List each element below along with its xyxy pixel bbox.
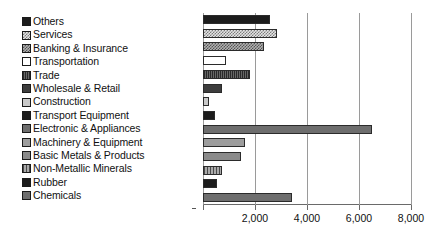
legend-item[interactable]: Machinery & Equipment xyxy=(22,136,187,149)
bar-series xyxy=(203,13,412,205)
x-axis-tick-label: 2,000 xyxy=(242,212,268,224)
legend-item-label: Wholesale & Retail xyxy=(33,82,120,95)
legend-swatch-icon xyxy=(22,98,31,107)
legend-item-label: Banking & Insurance xyxy=(33,42,128,55)
bar[interactable] xyxy=(203,179,217,188)
legend-item[interactable]: Trade xyxy=(22,69,187,82)
x-axis-origin-tick xyxy=(203,205,204,210)
bar[interactable] xyxy=(203,15,270,24)
bar-row xyxy=(203,177,412,191)
x-axis-tick xyxy=(359,205,360,210)
x-axis-tick xyxy=(255,205,256,210)
bar-row xyxy=(203,191,412,205)
legend-swatch-icon xyxy=(22,111,31,120)
plot-area xyxy=(203,13,412,205)
legend-item[interactable]: Transport Equipment xyxy=(22,109,187,122)
legend-item-label: Electronic & Appliances xyxy=(33,122,140,135)
bar-row xyxy=(203,13,412,27)
legend-item[interactable]: Electronic & Appliances xyxy=(22,122,187,135)
legend-item-label: Trade xyxy=(33,69,60,82)
legend-item-label: Rubber xyxy=(33,176,67,189)
bar-row xyxy=(203,95,412,109)
bar-chart: OthersServicesBanking & InsuranceTranspo… xyxy=(0,0,432,250)
bar-row xyxy=(203,136,412,150)
legend-item-label: Transport Equipment xyxy=(33,109,129,122)
bar[interactable] xyxy=(203,56,226,65)
bar-row xyxy=(203,68,412,82)
bar-row xyxy=(203,164,412,178)
bar-row xyxy=(203,123,412,137)
legend-item-label: Services xyxy=(33,28,72,41)
bar-row xyxy=(203,54,412,68)
bar[interactable] xyxy=(203,97,209,106)
legend-item[interactable]: Banking & Insurance xyxy=(22,42,187,55)
legend-swatch-icon xyxy=(22,178,31,187)
x-axis-tick xyxy=(307,205,308,210)
bar[interactable] xyxy=(203,84,222,93)
bar[interactable] xyxy=(203,125,372,134)
legend-swatch-icon xyxy=(22,151,31,160)
legend-item-label: Others xyxy=(33,15,64,28)
bar-row xyxy=(203,82,412,96)
legend-swatch-icon xyxy=(22,124,31,133)
legend-swatch-icon xyxy=(22,57,31,66)
legend-item-label: Basic Metals & Products xyxy=(33,149,145,162)
bar-row xyxy=(203,27,412,41)
legend-item-label: Machinery & Equipment xyxy=(33,136,142,149)
bar[interactable] xyxy=(203,42,264,51)
legend-item[interactable]: Services xyxy=(22,28,187,41)
legend-item-label: Non-Metallic Minerals xyxy=(33,162,132,175)
origin-dash-mark xyxy=(192,208,196,209)
legend-swatch-icon xyxy=(22,71,31,80)
legend-item-label: Chemicals xyxy=(33,189,81,202)
legend-swatch-icon xyxy=(22,191,31,200)
bar[interactable] xyxy=(203,152,241,161)
bar-row xyxy=(203,40,412,54)
bar-row xyxy=(203,150,412,164)
legend-item[interactable]: Rubber xyxy=(22,176,187,189)
legend-item[interactable]: Construction xyxy=(22,95,187,108)
bar-row xyxy=(203,109,412,123)
legend-item[interactable]: Non-Metallic Minerals xyxy=(22,162,187,175)
x-axis-tick-label: 6,000 xyxy=(346,212,372,224)
bar[interactable] xyxy=(203,138,245,147)
legend-item[interactable]: Basic Metals & Products xyxy=(22,149,187,162)
legend-item[interactable]: Transportation xyxy=(22,55,187,68)
bar[interactable] xyxy=(203,111,215,120)
legend-item[interactable]: Chemicals xyxy=(22,189,187,202)
x-axis-tick-label: 8,000 xyxy=(398,212,424,224)
bar[interactable] xyxy=(203,193,292,202)
bar[interactable] xyxy=(203,166,222,175)
legend-swatch-icon xyxy=(22,31,31,40)
chart-legend: OthersServicesBanking & InsuranceTranspo… xyxy=(22,15,187,202)
legend-item[interactable]: Others xyxy=(22,15,187,28)
bar[interactable] xyxy=(203,70,250,79)
x-axis-tick-label: 4,000 xyxy=(294,212,320,224)
legend-item-label: Construction xyxy=(33,95,91,108)
x-axis-tick xyxy=(411,205,412,210)
legend-swatch-icon xyxy=(22,138,31,147)
bar[interactable] xyxy=(203,29,277,38)
legend-swatch-icon xyxy=(22,164,31,173)
legend-swatch-icon xyxy=(22,84,31,93)
legend-item[interactable]: Wholesale & Retail xyxy=(22,82,187,95)
legend-item-label: Transportation xyxy=(33,55,99,68)
legend-swatch-icon xyxy=(22,44,31,53)
legend-swatch-icon xyxy=(22,17,31,26)
